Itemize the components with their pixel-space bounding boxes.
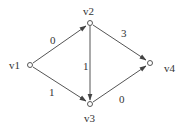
label-v4: v4 — [164, 62, 176, 74]
node-v4 — [148, 61, 153, 66]
weight-v1-v2: 0 — [50, 34, 56, 46]
graph-diagram: 0 1 1 3 0 v1 v2 v3 v4 — [0, 0, 180, 131]
weight-v3-v4: 0 — [119, 93, 125, 105]
edge-v1-v2 — [33, 26, 86, 63]
edge-v1-v3 — [33, 67, 86, 101]
node-v3 — [88, 102, 93, 107]
label-v2: v2 — [83, 5, 94, 17]
label-v3: v3 — [84, 112, 96, 124]
weight-v2-v3: 1 — [83, 60, 89, 72]
node-v2 — [88, 21, 93, 26]
weight-v1-v3: 1 — [49, 86, 55, 98]
node-v1 — [28, 63, 33, 68]
label-v1: v1 — [9, 59, 20, 71]
edge-v2-v4 — [93, 25, 146, 60]
weight-v2-v4: 3 — [121, 27, 127, 39]
